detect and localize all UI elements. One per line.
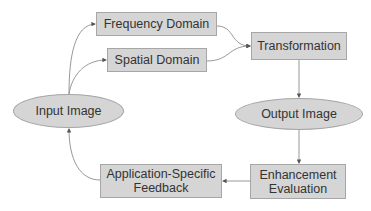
node-label: Spatial Domain	[115, 53, 200, 67]
node-frequency-domain: Frequency Domain	[96, 12, 217, 36]
node-label-line2: Feedback	[134, 181, 189, 195]
node-label: Frequency Domain	[104, 17, 210, 31]
diagram-canvas: Input Image Frequency Domain Spatial Dom…	[0, 0, 371, 211]
node-label: Transformation	[257, 39, 341, 53]
node-label-line1: Application-Specific	[106, 167, 215, 181]
edge-frequency-to-transformation	[217, 26, 250, 46]
node-label: Input Image	[35, 104, 101, 118]
node-label-line1: Enhancement	[259, 168, 336, 182]
node-label: Output Image	[261, 107, 337, 121]
node-label-line2: Evaluation	[269, 182, 327, 196]
node-enhancement-evaluation: Enhancement Evaluation	[250, 164, 346, 199]
edge-input-to-frequency	[69, 24, 95, 94]
edge-input-to-spatial	[69, 60, 106, 94]
edge-feedback-to-input	[69, 129, 100, 180]
node-spatial-domain: Spatial Domain	[107, 48, 207, 72]
node-application-specific-feedback: Application-Specific Feedback	[100, 164, 222, 198]
node-output-image: Output Image	[235, 98, 363, 130]
node-input-image: Input Image	[13, 94, 124, 128]
edge-spatial-to-transformation	[207, 46, 250, 61]
node-transformation: Transformation	[251, 32, 347, 60]
